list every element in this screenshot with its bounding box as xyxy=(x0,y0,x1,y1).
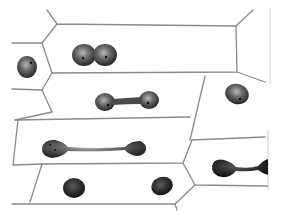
nucleus-right-lower-stretched xyxy=(212,159,268,177)
illustration-canvas xyxy=(0,0,281,223)
cell-division-illustration: Ink drawing of elongated plant cells sho… xyxy=(0,0,281,223)
nucleus-top-constricting xyxy=(72,44,117,66)
nucleus-bottom-left xyxy=(63,178,85,198)
nucleus-left-edge xyxy=(17,56,37,78)
nucleus-bottom-right xyxy=(149,174,176,198)
cell-walls xyxy=(12,8,270,210)
nucleus-right-upper xyxy=(222,80,251,107)
nucleus-lower-stretched xyxy=(42,140,146,158)
nucleus-middle-elongating xyxy=(95,91,159,111)
